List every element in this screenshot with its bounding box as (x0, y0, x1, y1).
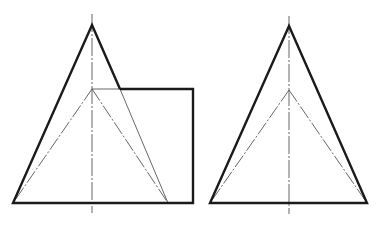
front-view (13, 14, 193, 213)
projection-drawing (0, 0, 376, 233)
front-view-hidden-right-edge (92, 89, 168, 203)
side-view-hidden-left-edge (210, 90, 289, 203)
side-view (210, 16, 367, 214)
front-view-hidden-left-edge (13, 89, 92, 203)
side-view-hidden-right-edge (289, 90, 367, 203)
side-view-outline (210, 26, 367, 203)
front-view-outline (13, 25, 193, 203)
front-view-continuation-edge (120, 89, 168, 203)
